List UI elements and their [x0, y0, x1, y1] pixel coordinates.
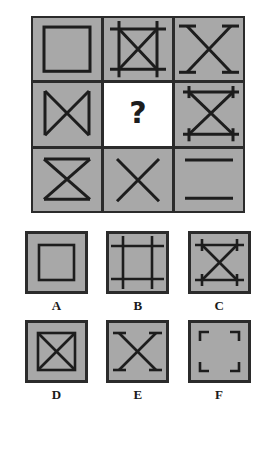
- option-b-figure[interactable]: [106, 231, 169, 294]
- option-a[interactable]: A: [22, 231, 91, 314]
- hash-square-icon: [109, 234, 166, 291]
- x-icon: [104, 149, 172, 211]
- matrix-cell-row1-col2: [104, 18, 172, 80]
- option-a-label: A: [52, 299, 62, 314]
- square-icon: [28, 234, 85, 291]
- option-d-label: D: [52, 388, 62, 403]
- matrix-cell-row3-col1: [33, 149, 101, 211]
- option-e[interactable]: E: [103, 320, 172, 403]
- option-f-figure[interactable]: [188, 320, 251, 383]
- two-horizontal-lines-icon: [175, 149, 243, 211]
- matrix-cell-row3-col2: [104, 149, 172, 211]
- option-e-figure[interactable]: [106, 320, 169, 383]
- square-with-x-icon: [28, 323, 85, 380]
- hourglass-with-t-caps-icon: [175, 83, 243, 145]
- x-with-t-caps-icon: [175, 18, 243, 80]
- option-b-label: B: [133, 299, 142, 314]
- bowtie-horizontal-icon: [33, 83, 101, 145]
- corner-brackets-icon: [191, 323, 248, 380]
- x-with-t-caps-icon: [109, 323, 166, 380]
- question-mark: ?: [104, 83, 172, 145]
- option-c-figure[interactable]: [188, 231, 251, 294]
- problem-matrix: ?: [31, 16, 245, 213]
- matrix-cell-missing[interactable]: ?: [104, 83, 172, 145]
- hourglass-icon: [33, 149, 101, 211]
- hash-square-with-x-icon: [104, 18, 172, 80]
- matrix-cell-row2-col1: [33, 83, 101, 145]
- option-b[interactable]: B: [103, 231, 172, 314]
- option-d-figure[interactable]: [25, 320, 88, 383]
- option-f[interactable]: F: [185, 320, 254, 403]
- option-c[interactable]: C: [185, 231, 254, 314]
- matrix-cell-row1-col1: [33, 18, 101, 80]
- option-f-label: F: [215, 388, 223, 403]
- option-e-label: E: [133, 388, 142, 403]
- matrix-cell-row1-col3: [175, 18, 243, 80]
- option-a-figure[interactable]: [25, 231, 88, 294]
- answer-options: A B: [22, 231, 254, 403]
- square-icon: [33, 18, 101, 80]
- option-c-label: C: [214, 299, 224, 314]
- puzzle-canvas: ?: [0, 0, 276, 450]
- matrix-cell-row2-col3: [175, 83, 243, 145]
- option-d[interactable]: D: [22, 320, 91, 403]
- matrix-cell-row3-col3: [175, 149, 243, 211]
- hourglass-with-t-caps-icon: [191, 234, 248, 291]
